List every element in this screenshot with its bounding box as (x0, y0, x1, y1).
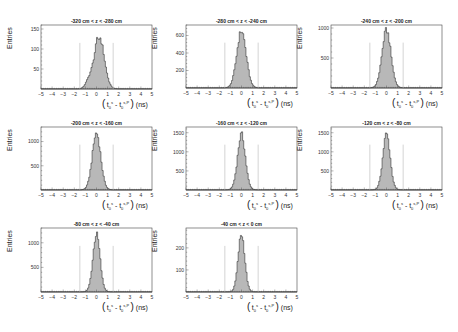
x-tick-label: −2 (71, 294, 77, 300)
x-tick-label: −4 (194, 294, 200, 300)
x-tick-label: 0 (95, 91, 98, 97)
x-tick-label: 5 (296, 192, 299, 198)
x-tick-label: 2 (117, 91, 120, 97)
x-tick-label: −1 (228, 192, 234, 198)
y-tick-label: 200 (176, 245, 185, 251)
x-tick-label: 0 (240, 192, 243, 198)
x-tick-label: −3 (60, 192, 66, 198)
y-axis-label: Entries (6, 230, 13, 252)
y-tick-label: 500 (31, 163, 40, 169)
x-tick-label: −4 (194, 192, 200, 198)
x-tick-label: −5 (328, 90, 334, 96)
y-tick-label: 150 (31, 26, 40, 32)
x-tick-label: 0 (385, 90, 388, 96)
y-tick-label: 500 (321, 168, 330, 174)
x-tick-label: −1 (83, 192, 89, 198)
x-tick-label: 3 (273, 90, 276, 96)
x-tick-label: −2 (71, 91, 77, 97)
x-tick-label: 5 (441, 90, 444, 96)
x-tick-label: 3 (128, 91, 131, 97)
histogram-plot: −5−4−3−2−1012345200400600 (166, 23, 303, 100)
histogram-bars (41, 37, 152, 89)
x-tick-label: 5 (296, 294, 299, 300)
x-tick-label: −2 (216, 192, 222, 198)
y-tick-label: 1000 (173, 149, 184, 155)
histogram-plot: −5−4−3−2−1012345100200 (166, 226, 303, 304)
x-tick-label: 4 (140, 91, 143, 97)
x-tick-label: 2 (117, 294, 120, 300)
x-tick-label: −1 (373, 90, 379, 96)
x-tick-label: 1 (106, 294, 109, 300)
x-tick-label: 0 (240, 294, 243, 300)
x-axis-label: ( t0s - t0s,P ) (ns) (392, 97, 438, 109)
x-tick-label: −4 (49, 91, 55, 97)
x-tick-label: 2 (262, 90, 265, 96)
x-tick-label: 1 (251, 90, 254, 96)
x-tick-label: 0 (95, 192, 98, 198)
histogram-bars (186, 235, 297, 292)
x-tick-label: −1 (228, 90, 234, 96)
x-tick-label: 4 (140, 294, 143, 300)
x-tick-label: −5 (183, 90, 189, 96)
x-tick-label: −1 (83, 294, 89, 300)
x-tick-label: 1 (106, 192, 109, 198)
y-tick-label: 1500 (318, 130, 329, 136)
x-tick-label: −5 (38, 294, 44, 300)
x-tick-label: −4 (339, 192, 345, 198)
histogram-plot: −5−4−3−2−10123455001000 (21, 125, 158, 202)
x-tick-label: 2 (117, 192, 120, 198)
x-tick-label: 5 (151, 91, 154, 97)
y-tick-label: 50 (33, 66, 39, 72)
x-tick-label: −2 (216, 294, 222, 300)
x-tick-label: 2 (407, 192, 410, 198)
x-tick-label: −3 (60, 294, 66, 300)
y-axis-label: Entries (151, 230, 158, 252)
x-tick-label: −3 (350, 192, 356, 198)
x-tick-label: 1 (106, 91, 109, 97)
x-tick-label: −2 (71, 192, 77, 198)
x-tick-label: 4 (430, 192, 433, 198)
x-tick-label: 5 (151, 192, 154, 198)
histogram-bars (41, 133, 152, 190)
x-tick-label: −3 (205, 90, 211, 96)
histogram-bars (331, 27, 442, 88)
x-tick-label: −5 (38, 192, 44, 198)
x-tick-label: −1 (83, 91, 89, 97)
x-tick-label: 4 (285, 192, 288, 198)
histogram-bars (186, 132, 297, 190)
y-tick-label: 200 (176, 67, 185, 73)
histogram-bars (41, 232, 152, 292)
x-tick-label: 3 (418, 192, 421, 198)
x-tick-label: 1 (396, 90, 399, 96)
x-tick-label: −3 (205, 192, 211, 198)
x-tick-label: −5 (38, 91, 44, 97)
histogram-plot: −5−4−3−2−101234550010001500 (166, 125, 303, 202)
x-tick-label: 3 (273, 192, 276, 198)
x-tick-label: −4 (339, 90, 345, 96)
x-axis-label: ( t0s - t0s,P ) (ns) (392, 199, 438, 211)
y-tick-label: 500 (176, 168, 185, 174)
x-tick-label: 2 (407, 90, 410, 96)
x-axis-label: ( t0s - t0s,P ) (ns) (102, 98, 148, 110)
x-tick-label: 0 (240, 90, 243, 96)
x-axis-label: ( t0s - t0s,P ) (ns) (102, 301, 148, 313)
x-axis-label: ( t0s - t0s,P ) (ns) (247, 199, 293, 211)
x-tick-label: 4 (285, 294, 288, 300)
x-tick-label: 1 (396, 192, 399, 198)
y-axis-label: Entries (296, 27, 303, 49)
x-tick-label: −3 (60, 91, 66, 97)
x-tick-label: −5 (328, 192, 334, 198)
y-tick-label: 1000 (318, 149, 329, 155)
x-tick-label: −4 (194, 90, 200, 96)
x-tick-label: −2 (361, 90, 367, 96)
y-tick-label: 1500 (173, 130, 184, 136)
x-tick-label: −1 (228, 294, 234, 300)
x-tick-label: −2 (361, 192, 367, 198)
x-tick-label: 3 (128, 192, 131, 198)
x-tick-label: −5 (183, 192, 189, 198)
histogram-plot: −5−4−3−2−101234550100150 (21, 23, 158, 101)
y-axis-label: Entries (151, 129, 158, 151)
histogram-plot: −5−4−3−2−101234550010001500 (311, 125, 448, 202)
x-tick-label: 1 (251, 192, 254, 198)
y-tick-label: 500 (31, 264, 40, 270)
